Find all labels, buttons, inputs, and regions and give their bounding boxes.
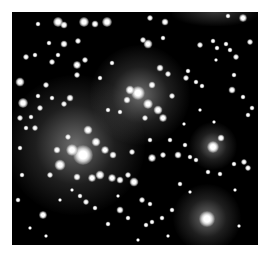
star: [54, 147, 61, 154]
star: [96, 171, 105, 180]
star: [18, 98, 28, 108]
star: [178, 182, 183, 187]
star: [211, 39, 216, 44]
star: [168, 138, 173, 143]
star: [218, 172, 223, 177]
star: [148, 154, 156, 162]
star: [16, 198, 21, 203]
star: [93, 206, 98, 211]
star: [144, 40, 153, 49]
star: [61, 41, 68, 48]
cluster-glow: [173, 184, 241, 245]
star: [200, 84, 205, 89]
star: [188, 155, 193, 160]
star: [160, 216, 165, 221]
star: [66, 144, 78, 156]
star: [50, 96, 55, 101]
star: [117, 177, 124, 184]
star: [161, 36, 166, 41]
star: [143, 99, 153, 109]
star: [206, 170, 211, 175]
star: [106, 222, 111, 227]
star: [29, 115, 34, 120]
star: [159, 114, 167, 122]
star: [118, 110, 123, 115]
star: [106, 108, 111, 113]
cluster-glow: [189, 122, 237, 170]
star: [150, 220, 155, 225]
star: [207, 141, 219, 153]
star: [175, 152, 182, 159]
star: [169, 93, 175, 99]
star: [67, 95, 74, 102]
star: [165, 71, 171, 77]
star: [47, 41, 52, 46]
star: [194, 158, 199, 163]
star: [124, 97, 131, 104]
star: [162, 19, 169, 26]
star: [199, 211, 215, 227]
star: [245, 165, 251, 171]
star: [73, 61, 81, 69]
star: [157, 65, 164, 72]
star: [43, 82, 49, 88]
star: [233, 54, 239, 60]
star: [92, 138, 101, 147]
star: [125, 172, 131, 178]
star: [110, 152, 117, 159]
star: [47, 172, 53, 178]
star: [101, 146, 109, 154]
star: [144, 223, 149, 228]
star: [32, 125, 38, 131]
star: [218, 135, 225, 142]
star: [82, 57, 88, 63]
star: [247, 39, 253, 45]
star: [170, 208, 175, 213]
star: [102, 17, 112, 27]
star: [136, 238, 140, 242]
star: [148, 138, 153, 143]
star: [53, 17, 63, 27]
star: [24, 126, 29, 131]
star: [241, 159, 247, 165]
star: [148, 202, 153, 207]
star: [214, 58, 218, 62]
star: [117, 207, 124, 214]
star: [110, 61, 115, 66]
star: [108, 174, 116, 182]
star: [131, 86, 145, 100]
star: [212, 120, 216, 124]
star: [160, 152, 166, 158]
star: [65, 134, 71, 140]
star: [142, 115, 148, 121]
star: [130, 178, 139, 187]
star: [37, 105, 43, 111]
star: [129, 149, 135, 155]
star: [126, 216, 131, 221]
star: [215, 46, 220, 51]
star: [56, 53, 61, 58]
star: [61, 22, 68, 29]
star: [188, 190, 192, 194]
star: [36, 94, 41, 99]
star: [116, 194, 120, 198]
star: [36, 22, 41, 27]
star: [49, 59, 55, 65]
star: [183, 75, 189, 81]
star: [75, 38, 81, 44]
star: [79, 17, 89, 27]
star: [166, 234, 170, 238]
star: [16, 78, 25, 87]
star: [183, 143, 188, 148]
star: [198, 108, 202, 112]
star: [44, 234, 48, 238]
star: [28, 226, 32, 230]
star: [92, 21, 99, 28]
star: [20, 173, 25, 178]
star-cluster-image: [12, 12, 258, 245]
star: [18, 146, 23, 151]
star: [182, 122, 186, 126]
star: [186, 69, 191, 74]
cluster-glow: [90, 45, 190, 145]
star: [194, 80, 199, 85]
